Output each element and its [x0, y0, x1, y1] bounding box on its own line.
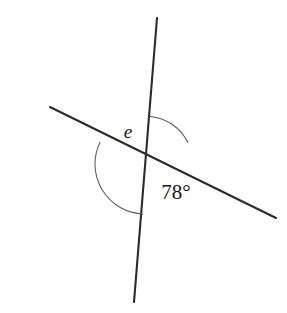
- diagram-background: [0, 0, 287, 313]
- angle-e-label: e: [124, 121, 132, 142]
- geometry-canvas: e 78°: [0, 0, 287, 313]
- angle-78-label: 78°: [161, 180, 190, 204]
- geometry-diagram: e 78°: [0, 0, 287, 313]
